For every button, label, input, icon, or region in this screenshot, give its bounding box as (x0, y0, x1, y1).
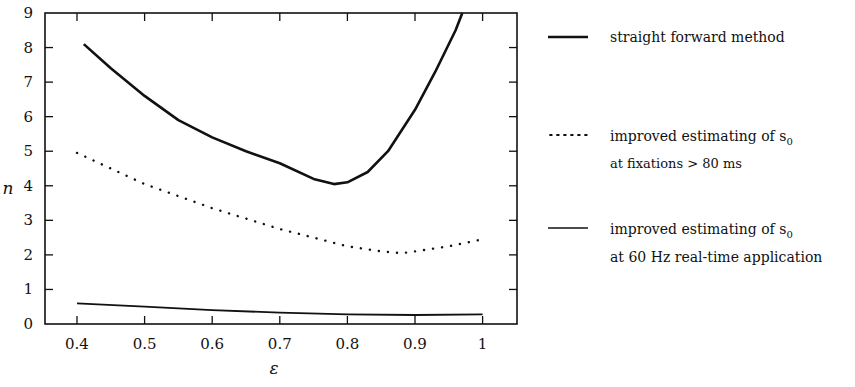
x-axis: 0.40.50.60.70.80.91 (65, 13, 487, 353)
data-series (77, 13, 483, 315)
legend-label: improved estimating of s (610, 128, 786, 144)
y-tick-label: 6 (23, 108, 33, 126)
legend-subscript: 0 (786, 136, 792, 147)
y-tick-label: 7 (23, 73, 33, 91)
y-tick-label: 8 (23, 39, 33, 57)
y-tick-label: 5 (23, 142, 33, 160)
x-tick-label: 0.8 (335, 335, 359, 353)
plot-frame (45, 13, 517, 324)
y-tick-label: 1 (23, 280, 33, 298)
x-tick-label: 0.9 (403, 335, 427, 353)
y-tick-label: 0 (23, 315, 33, 333)
legend-item-fixations: improved estimating of s0 at fixations >… (548, 125, 793, 175)
y-tick-label: 4 (23, 177, 33, 195)
legend-label-secondary: at fixations > 80 ms (610, 153, 793, 175)
y-tick-label: 9 (23, 4, 33, 22)
legend-item-60hz: improved estimating of s0 at 60 Hz real-… (548, 218, 822, 268)
series-line-1 (77, 153, 483, 253)
y-axis-label: n (3, 178, 14, 198)
legend-label: straight forward method (610, 26, 785, 48)
series-line-0 (84, 13, 463, 184)
x-tick-label: 0.7 (268, 335, 292, 353)
line-chart: 0.40.50.60.70.80.91 0123456789 ε n (0, 0, 540, 387)
x-tick-label: 0.5 (133, 335, 157, 353)
x-tick-label: 0.4 (65, 335, 89, 353)
series-line-2 (77, 303, 483, 315)
legend-label-secondary: at 60 Hz real-time application (610, 246, 822, 268)
legend-swatch-solid-thin (548, 218, 588, 232)
x-axis-label: ε (269, 358, 278, 378)
x-tick-label: 1 (478, 335, 488, 353)
x-tick-label: 0.6 (200, 335, 224, 353)
legend-subscript: 0 (786, 229, 792, 240)
legend-item-straight-forward: straight forward method (548, 26, 785, 48)
legend-label: improved estimating of s (610, 221, 786, 237)
y-tick-label: 3 (23, 211, 33, 229)
y-tick-label: 2 (23, 246, 33, 264)
legend-swatch-dotted (548, 125, 588, 139)
legend-swatch-solid-thick (548, 26, 588, 40)
